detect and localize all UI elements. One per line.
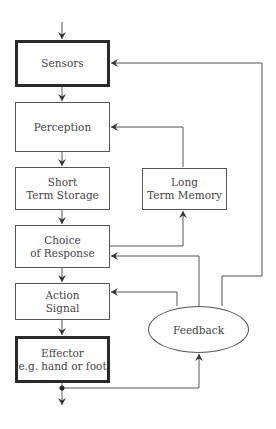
node-label-line1: Action <box>45 289 79 302</box>
node-label: Sensors <box>41 57 83 70</box>
node-effector: Effector e.g. hand or foot <box>15 336 110 383</box>
node-short-term-storage: Short Term Storage <box>15 167 110 210</box>
node-label: Perception <box>34 121 91 134</box>
node-label-line1: Choice <box>30 234 94 247</box>
node-label-line1: Short <box>26 176 99 189</box>
node-label-line2: of Response <box>30 247 94 260</box>
node-feedback: Feedback <box>148 306 249 353</box>
node-label: Feedback <box>173 324 224 336</box>
node-sensors: Sensors <box>15 40 110 87</box>
node-label-line2: Signal <box>45 302 79 315</box>
node-long-term-memory: Long Term Memory <box>142 168 227 210</box>
node-label-line2: Term Memory <box>147 189 222 202</box>
junction-dot <box>60 386 65 391</box>
node-label-line2: Term Storage <box>26 189 99 202</box>
node-choice-of-response: Choice of Response <box>15 225 110 268</box>
node-perception: Perception <box>15 102 110 152</box>
node-label-line2: e.g. hand or foot <box>18 360 106 373</box>
node-action-signal: Action Signal <box>15 283 110 320</box>
node-label-line1: Effector <box>18 347 106 360</box>
node-label-line1: Long <box>147 176 222 189</box>
